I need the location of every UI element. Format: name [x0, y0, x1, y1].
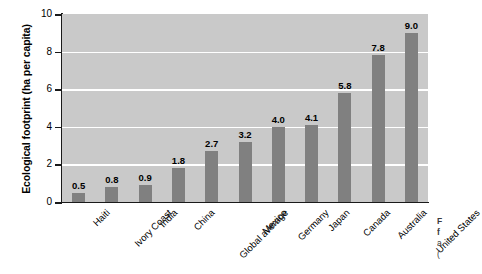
bar: [205, 151, 218, 202]
bar-value-label: 0.5: [61, 180, 97, 191]
bar-value-label: 4.1: [294, 112, 330, 123]
bar: [372, 55, 385, 202]
bar-value-label: 5.8: [327, 80, 363, 91]
y-axis-tick-label: 0: [28, 196, 52, 207]
x-axis-tick-label: Canada: [361, 207, 392, 238]
y-axis-tick-mark: [55, 127, 62, 129]
y-axis-tick-label: 4: [28, 121, 52, 132]
y-axis-title: Ecological footprint (ha per capita): [20, 4, 32, 214]
y-axis-tick-label: 10: [28, 8, 52, 19]
x-axis-tick-label: Japan: [325, 207, 351, 233]
bar: [305, 125, 318, 202]
y-axis-tick-mark: [55, 89, 62, 91]
bar-value-label: 3.2: [227, 129, 263, 140]
figure-caption-truncated: F f a (: [437, 216, 454, 260]
bar: [272, 127, 285, 202]
caption-line-2: f: [437, 227, 454, 238]
x-axis-tick-label: Australia: [395, 207, 429, 241]
y-axis-tick-label: 8: [28, 46, 52, 57]
bar: [172, 168, 185, 202]
bar-value-label: 0.8: [94, 174, 130, 185]
bar-value-label: 7.8: [360, 42, 396, 53]
bar-value-label: 1.8: [160, 155, 196, 166]
x-axis-tick-label: India: [157, 207, 179, 229]
y-axis-tick-label: 2: [28, 158, 52, 169]
caption-line-4: (: [437, 249, 454, 260]
bar-value-label: 4.0: [260, 114, 296, 125]
bar: [139, 185, 152, 202]
bar: [405, 33, 418, 202]
y-axis-tick-mark: [55, 52, 62, 54]
bar: [338, 93, 351, 202]
bar-value-label: 9.0: [393, 20, 429, 31]
bar: [105, 187, 118, 202]
bar: [72, 193, 85, 202]
y-axis-tick-mark: [55, 202, 62, 204]
bar: [239, 142, 252, 202]
x-axis-tick-label: China: [192, 207, 217, 232]
x-axis-tick-label: Haiti: [90, 207, 111, 228]
y-axis-tick-label: 6: [28, 83, 52, 94]
caption-line-3: a: [437, 238, 454, 249]
y-axis-tick-mark: [55, 14, 62, 16]
y-axis-tick-mark: [55, 164, 62, 166]
caption-line-1: F: [437, 216, 454, 227]
bar-value-label: 2.7: [194, 138, 230, 149]
bar-value-label: 0.9: [127, 172, 163, 183]
x-axis-tick-label: Mexico: [260, 207, 289, 236]
